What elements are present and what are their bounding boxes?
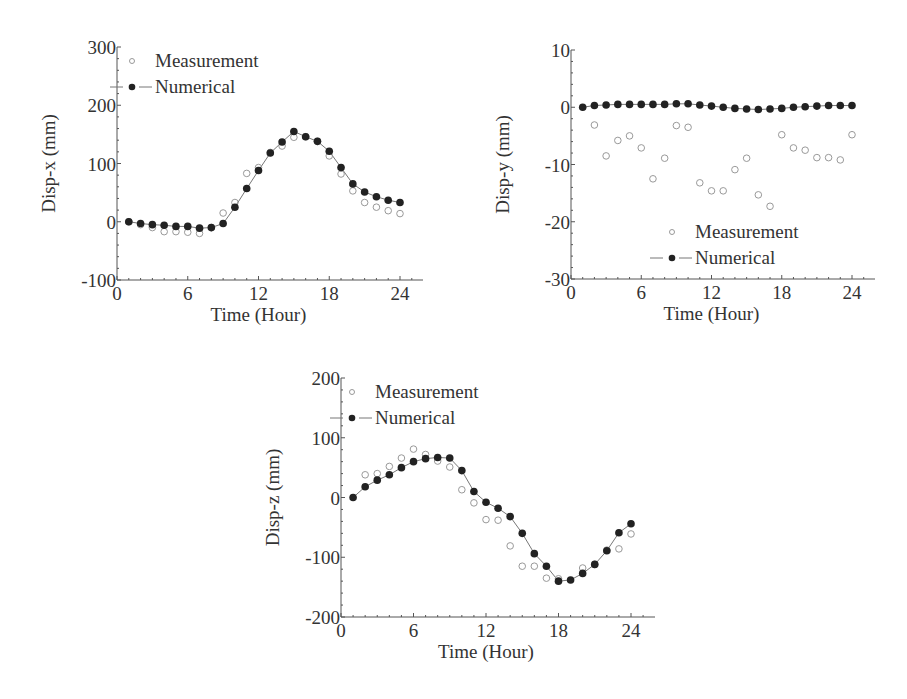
measurement-point [755, 192, 762, 199]
x-tick-label: 18 [772, 282, 791, 303]
measurement-point [459, 486, 466, 493]
legend-measurement-label: Measurement [155, 50, 259, 71]
measurement-point [373, 204, 380, 211]
y-tick-label: 100 [88, 154, 117, 175]
numerical-point [825, 102, 833, 110]
measurement-point [626, 133, 633, 140]
measurement-point [385, 207, 392, 214]
y-tick-label: 200 [312, 370, 341, 389]
measurement-point [708, 188, 715, 195]
measurement-point [386, 463, 393, 470]
numerical-point [848, 102, 856, 110]
measurement-point [732, 166, 739, 173]
measurement-point [495, 517, 502, 524]
numerical-point [627, 520, 635, 528]
measurement-point [543, 575, 550, 582]
y-tick-label: 300 [88, 40, 117, 58]
measurement-point [638, 145, 645, 152]
legend-numerical-icon [129, 84, 136, 91]
numerical-point [373, 476, 381, 484]
measurement-point [616, 546, 623, 553]
numerical-point [302, 133, 310, 141]
y-tick-label: 0 [561, 97, 571, 118]
numerical-point [743, 105, 751, 113]
numerical-point [614, 101, 622, 109]
y-tick-label: 10 [551, 40, 570, 61]
numerical-point [543, 562, 551, 570]
numerical-point [325, 147, 333, 155]
measurement-point [398, 455, 405, 462]
numerical-point [361, 188, 369, 196]
numerical-point [349, 494, 357, 502]
measurement-point [507, 543, 514, 550]
measurement-point [685, 124, 692, 131]
numerical-point [603, 547, 611, 555]
numerical-point [555, 577, 563, 585]
numerical-point [649, 101, 657, 109]
legend-numerical-icon [349, 415, 356, 422]
numerical-point [591, 561, 599, 569]
numerical-point [637, 101, 645, 109]
y-tick-label: 0 [107, 212, 117, 233]
numerical-point [731, 105, 739, 113]
numerical-point [422, 455, 430, 463]
chart-disp-y: 06121824-30-20-10010Time (Hour)Disp-y (m… [455, 40, 907, 340]
numerical-point [160, 221, 168, 229]
numerical-point [661, 101, 669, 109]
measurement-point [591, 122, 598, 129]
x-tick-label: 24 [622, 620, 642, 641]
numerical-point [149, 221, 157, 229]
measurement-point [603, 153, 610, 160]
x-tick-label: 6 [409, 620, 419, 641]
y-tick-label: -200 [305, 607, 340, 628]
numerical-point [684, 100, 692, 108]
numerical-point [125, 218, 133, 226]
measurement-point [696, 180, 703, 187]
numerical-point [531, 550, 539, 558]
y-axis-label: Disp-z (mm) [262, 449, 284, 547]
numerical-point [386, 471, 394, 479]
numerical-point [673, 100, 681, 108]
x-tick-label: 24 [391, 283, 411, 304]
measurement-point [220, 210, 227, 217]
plot-disp-z: 06121824-200-1000100200Time (Hour)Disp-z… [220, 370, 670, 690]
y-tick-label: -10 [545, 155, 570, 176]
numerical-point [255, 167, 263, 175]
numerical-point [615, 529, 623, 537]
y-tick-label: -20 [545, 212, 570, 233]
measurement-point [790, 145, 797, 152]
measurement-point [374, 470, 381, 477]
numerical-point [696, 101, 704, 109]
measurement-point [161, 228, 168, 235]
numerical-point [458, 467, 466, 475]
numerical-point [137, 220, 145, 228]
numerical-point [482, 498, 490, 506]
numerical-point [243, 185, 251, 193]
measurement-point [350, 188, 357, 195]
numerical-point [361, 483, 369, 491]
measurement-point [362, 471, 369, 478]
plot-disp-x: 06121824-1000100200300Time (Hour)Disp-x … [0, 40, 440, 340]
numerical-point [506, 513, 514, 521]
numerical-point [567, 576, 575, 584]
numerical-point [396, 199, 404, 207]
measurement-point [531, 563, 538, 570]
y-tick-label: -100 [81, 270, 116, 291]
legend: MeasurementNumerical [110, 50, 259, 97]
measurement-point [767, 203, 774, 210]
numerical-point [778, 105, 786, 113]
numerical-point [591, 102, 599, 110]
numerical-point [290, 128, 298, 136]
numerical-point [434, 454, 442, 462]
numerical-line [129, 131, 400, 228]
y-tick-label: 0 [331, 488, 341, 509]
numerical-point [219, 220, 227, 228]
numerical-point [231, 203, 239, 211]
measurement-point [483, 516, 490, 523]
numerical-point [755, 106, 763, 114]
legend-measurement-label: Measurement [695, 221, 799, 242]
numerical-point [266, 149, 274, 157]
y-tick-label: 200 [88, 95, 117, 116]
plot-disp-y: 06121824-30-20-10010Time (Hour)Disp-y (m… [455, 40, 907, 340]
legend-numerical-label: Numerical [155, 76, 235, 97]
